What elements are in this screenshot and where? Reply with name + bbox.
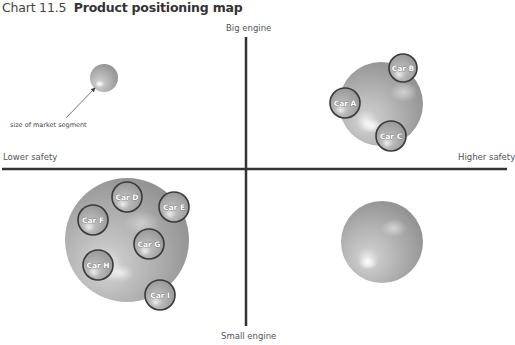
car-c-bubble[interactable]: Car C — [376, 121, 406, 151]
legend-sphere-icon — [90, 64, 118, 92]
arrow-icon — [66, 88, 95, 118]
car-h-label: Car H — [86, 261, 109, 270]
car-e-label: Car E — [163, 203, 185, 212]
car-a-label: Car A — [334, 99, 357, 108]
car-h-bubble[interactable]: Car H — [83, 250, 113, 280]
car-e-bubble[interactable]: Car E — [159, 192, 189, 222]
positioning-map: Car B Car A Car C Car D Car E Car F Car … — [0, 0, 515, 345]
car-f-label: Car F — [82, 216, 104, 225]
car-i-label: Car I — [150, 291, 170, 300]
car-g-label: Car G — [137, 240, 160, 249]
car-g-bubble[interactable]: Car G — [134, 229, 164, 259]
car-b-label: Car B — [392, 64, 415, 73]
car-f-bubble[interactable]: Car F — [78, 205, 108, 235]
car-c-label: Car C — [380, 132, 403, 141]
car-i-bubble[interactable]: Car I — [145, 280, 175, 310]
car-b-bubble[interactable]: Car B — [389, 54, 417, 82]
car-d-label: Car D — [115, 193, 138, 202]
car-a-bubble[interactable]: Car A — [330, 88, 360, 118]
segment-small-engine-higher-safety — [341, 201, 423, 283]
car-d-bubble[interactable]: Car D — [112, 182, 142, 212]
